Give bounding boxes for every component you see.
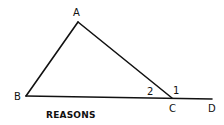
segment-bd — [26, 96, 212, 99]
angle-label-2: 2 — [147, 86, 153, 97]
vertex-label-b: B — [14, 91, 21, 102]
vertex-label-c: C — [169, 103, 176, 114]
vertex-label-a: A — [73, 7, 80, 18]
segment-ab — [26, 22, 78, 96]
segment-ac — [78, 22, 172, 98]
angle-label-1: 1 — [173, 85, 179, 96]
point-label-d: D — [208, 103, 216, 114]
reasons-caption: REASONS — [46, 110, 96, 120]
triangle-diagram: A B C D 2 1 REASONS — [0, 0, 224, 125]
